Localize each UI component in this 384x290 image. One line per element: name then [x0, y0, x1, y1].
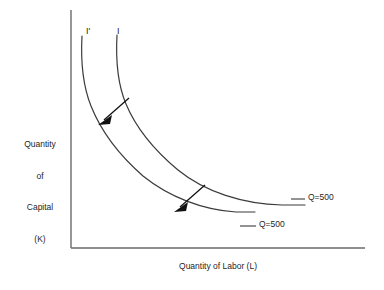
y-axis-label: Quantity of Capital (K)	[12, 118, 68, 265]
y-axis-label-line-3: Capital	[12, 202, 68, 213]
shift-arrow-upper-head	[98, 115, 112, 125]
q-label-outer-curve: Q=500	[259, 219, 285, 230]
y-axis-label-line-1: Quantity	[12, 139, 68, 150]
isoquant-chart-figure: Quantity of Capital (K) Quantity of Labo…	[0, 0, 384, 290]
y-axis-label-line-2: of	[12, 171, 68, 182]
shift-arrow-upper-shaft	[104, 98, 129, 120]
curve-label-outer: I'	[86, 26, 90, 37]
isoquant-curve-inner	[117, 35, 305, 205]
q-label-inner-curve: Q=500	[308, 192, 334, 203]
curve-label-inner: I	[117, 26, 120, 37]
shift-arrow-lower-head	[174, 202, 188, 212]
y-axis-label-line-4: (K)	[12, 234, 68, 245]
x-axis-label: Quantity of Labor (L)	[118, 261, 318, 272]
